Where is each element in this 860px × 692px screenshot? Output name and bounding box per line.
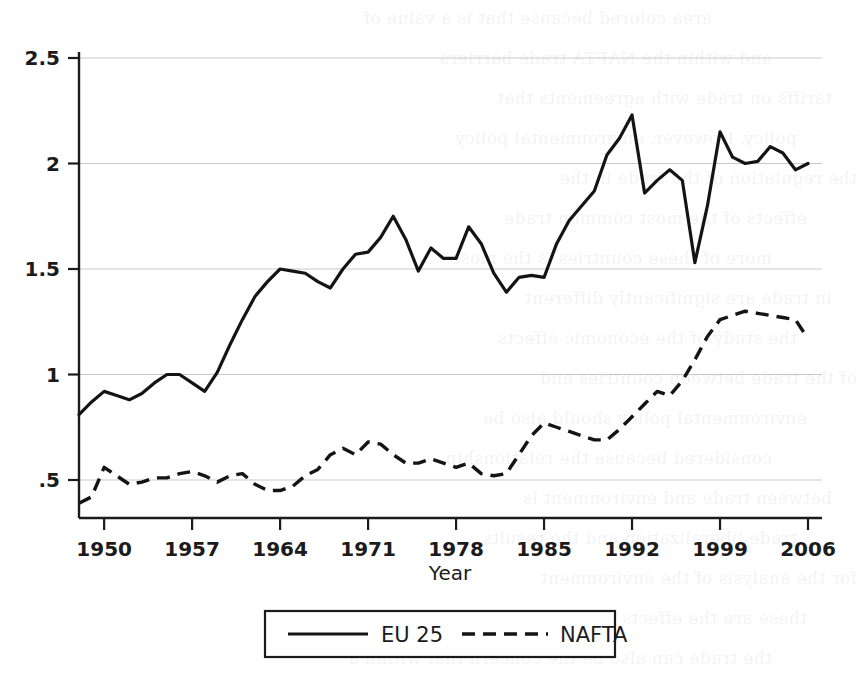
- y-tick-label: 2.5: [25, 46, 60, 70]
- y-tick-label: .5: [38, 468, 60, 492]
- legend-label-eu-25: EU 25: [381, 623, 443, 647]
- x-tick-label: 1985: [516, 537, 572, 561]
- y-axis-ticks: .511.522.5: [25, 46, 79, 492]
- x-axis-title: Year: [428, 561, 472, 585]
- chart-figure: area colored because that is a value ofa…: [0, 0, 860, 692]
- x-tick-label: 1992: [604, 537, 660, 561]
- x-axis-ticks: 195019571964197119781985199219992006: [76, 518, 836, 561]
- x-tick-label: 1957: [164, 537, 220, 561]
- line-chart-plot: .511.522.5 19501957196419711978198519921…: [0, 0, 860, 692]
- y-tick-label: 2: [46, 152, 60, 176]
- y-tick-label: 1.5: [25, 257, 60, 281]
- series-line-nafta: [79, 311, 808, 503]
- x-tick-label: 1999: [692, 537, 748, 561]
- x-tick-label: 1978: [428, 537, 484, 561]
- x-tick-label: 1971: [340, 537, 396, 561]
- legend-label-nafta: NAFTA: [560, 623, 628, 647]
- x-tick-label: 1950: [76, 537, 132, 561]
- series-line-eu-25: [79, 115, 808, 415]
- gridlines: [79, 58, 822, 480]
- legend: EU 25 NAFTA: [265, 611, 628, 657]
- x-tick-label: 1964: [252, 537, 308, 561]
- data-series-group: [79, 115, 808, 503]
- x-tick-label: 2006: [780, 537, 836, 561]
- y-tick-label: 1: [46, 363, 60, 387]
